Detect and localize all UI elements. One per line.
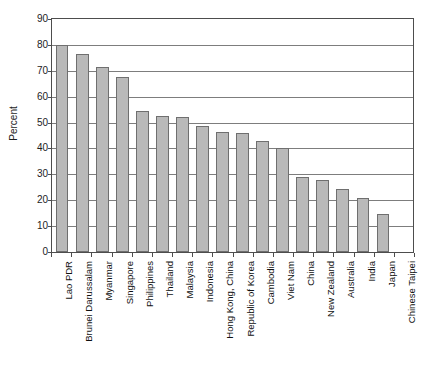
- bar-slot: [313, 19, 333, 252]
- x-axis-tick-mark: [172, 253, 173, 257]
- y-axis-tick-label: 60: [2, 92, 48, 102]
- x-axis-slot: Brunei Darussalam: [71, 253, 91, 363]
- bar: [196, 126, 209, 252]
- y-axis-tick-label: 10: [2, 221, 48, 231]
- x-axis-tick-mark: [293, 253, 294, 257]
- bar-series: [52, 19, 413, 252]
- bar: [336, 189, 349, 252]
- bar: [176, 117, 189, 252]
- bar-slot: [293, 19, 313, 252]
- bar: [96, 67, 109, 252]
- bar-slot: [353, 19, 373, 252]
- bar-slot: [233, 19, 253, 252]
- y-axis-tick-label: 20: [2, 195, 48, 205]
- x-axis-tick-mark: [354, 253, 355, 257]
- bar: [236, 133, 249, 252]
- x-axis-tick-mark: [71, 253, 72, 257]
- bar: [116, 77, 129, 252]
- x-axis-slot: Cambodia: [253, 253, 273, 363]
- bar-slot: [112, 19, 132, 252]
- y-axis-tick-label: 30: [2, 169, 48, 179]
- x-axis-slot: Thailand: [152, 253, 172, 363]
- plot-area: 9080706050403020100: [51, 18, 414, 253]
- x-axis-slot: Philippines: [132, 253, 152, 363]
- x-axis-slot: Republic of Korea: [233, 253, 253, 363]
- bar: [276, 148, 289, 252]
- bar: [216, 132, 229, 252]
- x-axis-slot: China: [293, 253, 313, 363]
- bar: [316, 180, 329, 252]
- bar-slot: [132, 19, 152, 252]
- x-axis-slot: Hong Kong, China: [212, 253, 232, 363]
- x-axis-slot: Viet Nam: [273, 253, 293, 363]
- bar: [56, 45, 69, 252]
- y-axis-tick-label: 80: [2, 40, 48, 50]
- bar-slot: [72, 19, 92, 252]
- bar-slot: [253, 19, 273, 252]
- x-axis-slot: India: [354, 253, 374, 363]
- x-axis-slot: Indonesia: [192, 253, 212, 363]
- x-axis-tick-mark: [253, 253, 254, 257]
- bar: [156, 116, 169, 252]
- bar-slot: [373, 19, 393, 252]
- y-axis-tick-label: 70: [2, 66, 48, 76]
- y-axis-tick-label: 40: [2, 143, 48, 153]
- bar: [357, 198, 370, 252]
- x-axis-tick-mark: [132, 253, 133, 257]
- bar-chart: Percent 9080706050403020100 Lao PDRBrune…: [0, 0, 431, 366]
- x-axis-tick-mark: [394, 253, 395, 257]
- x-axis-tick-mark: [414, 253, 415, 257]
- y-axis-tick-label: 90: [2, 14, 48, 24]
- x-axis-tick-mark: [112, 253, 113, 257]
- x-axis-labels: Lao PDRBrunei DarussalamMyanmarSingapore…: [51, 253, 414, 363]
- x-axis-tick-mark: [333, 253, 334, 257]
- x-axis-slot: Japan: [374, 253, 394, 363]
- x-axis-slot: New Zealand: [313, 253, 333, 363]
- bar-slot: [172, 19, 192, 252]
- x-axis-tick-mark: [91, 253, 92, 257]
- bar-slot: [393, 19, 413, 252]
- bar-slot: [152, 19, 172, 252]
- x-axis-slot: Malaysia: [172, 253, 192, 363]
- bar-slot: [192, 19, 212, 252]
- bar-slot: [213, 19, 233, 252]
- bar: [377, 214, 390, 252]
- bar-slot: [273, 19, 293, 252]
- x-axis-tick-mark: [273, 253, 274, 257]
- x-axis-tick-mark: [313, 253, 314, 257]
- x-axis-tick-mark: [233, 253, 234, 257]
- x-axis-slot: Myanmar: [91, 253, 111, 363]
- bar-slot: [333, 19, 353, 252]
- bar: [256, 141, 269, 252]
- x-axis-tick-mark: [374, 253, 375, 257]
- bar: [76, 54, 89, 252]
- x-axis-slot: Singapore: [112, 253, 132, 363]
- x-axis-tick-mark: [51, 253, 52, 257]
- bar-slot: [92, 19, 112, 252]
- x-axis-tick-mark: [192, 253, 193, 257]
- x-axis-tick-mark: [212, 253, 213, 257]
- x-axis-tick-mark: [152, 253, 153, 257]
- bar-slot: [52, 19, 72, 252]
- x-axis-slot: Australia: [333, 253, 353, 363]
- bar: [136, 111, 149, 252]
- x-axis-tick-label: Chinese Taipei: [407, 261, 417, 323]
- x-axis-slot: Chinese Taipei: [394, 253, 414, 363]
- y-axis-tick-label: 0: [2, 247, 48, 257]
- x-axis-slot: Lao PDR: [51, 253, 71, 363]
- y-axis-tick-label: 50: [2, 118, 48, 128]
- bar: [296, 177, 309, 252]
